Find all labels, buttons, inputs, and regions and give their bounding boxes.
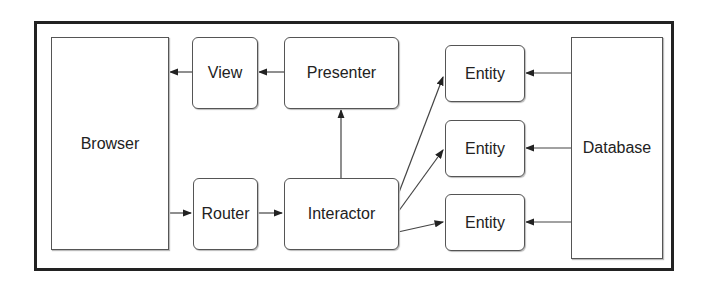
node-interactor-label: Interactor bbox=[308, 205, 376, 223]
node-browser-label: Browser bbox=[81, 135, 140, 153]
node-entity-3: Entity bbox=[445, 194, 525, 251]
node-entity-3-label: Entity bbox=[465, 214, 505, 232]
node-database: Database bbox=[571, 37, 663, 259]
node-presenter-label: Presenter bbox=[307, 64, 376, 82]
arrow-interactor-to-entity2 bbox=[398, 150, 443, 212]
arrow-interactor-to-entity1 bbox=[398, 77, 443, 195]
arrow-interactor-to-entity3 bbox=[398, 222, 443, 232]
node-view: View bbox=[192, 37, 258, 109]
node-interactor: Interactor bbox=[284, 178, 399, 250]
node-router-label: Router bbox=[201, 205, 249, 223]
node-entity-2: Entity bbox=[445, 120, 525, 177]
node-database-label: Database bbox=[583, 139, 652, 157]
node-entity-2-label: Entity bbox=[465, 140, 505, 158]
node-view-label: View bbox=[208, 64, 242, 82]
node-presenter: Presenter bbox=[284, 37, 399, 109]
node-router: Router bbox=[193, 178, 258, 250]
node-entity-1: Entity bbox=[445, 45, 525, 102]
node-browser: Browser bbox=[51, 37, 169, 250]
node-entity-1-label: Entity bbox=[465, 65, 505, 83]
